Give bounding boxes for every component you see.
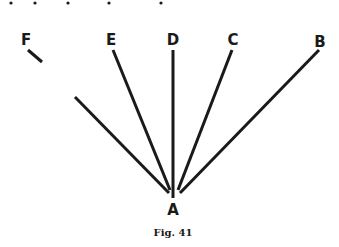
fig41-diagram: F E D C B A Fig. 41 [0,0,339,247]
ray-b [180,50,319,193]
ray-lines [28,50,319,198]
ray-f-upper [28,50,42,62]
label-f: F [21,31,31,49]
label-d: D [167,31,179,49]
figure-caption: Fig. 41 [154,227,193,238]
ray-e [113,50,170,190]
top-dots [9,1,162,4]
ray-f-lower [75,97,169,193]
label-e: E [106,31,116,49]
label-b: B [314,33,325,51]
label-c: C [227,31,238,49]
label-a: A [167,201,179,219]
